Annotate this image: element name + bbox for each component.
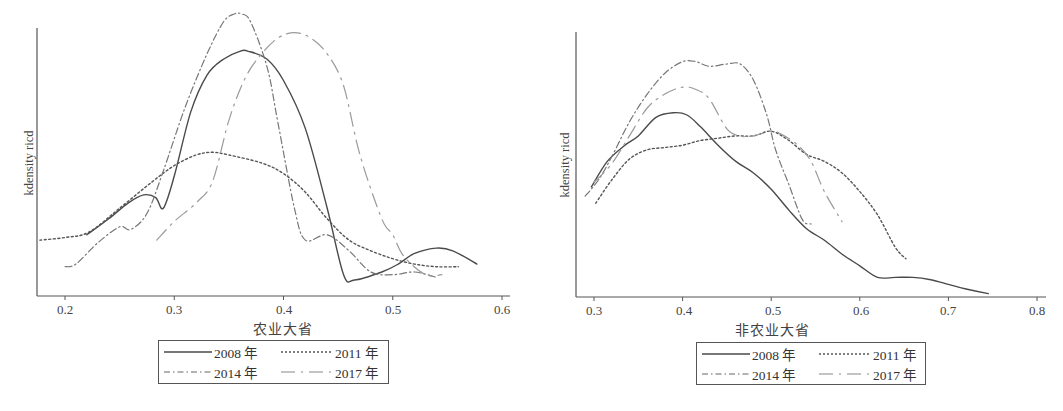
right-x-tick-label: 0.3 [586,303,602,319]
left-x-tick-label: 0.5 [385,302,401,318]
series-line-2011 [40,152,458,267]
series-line-2008 [87,50,477,282]
right-x-tick-label: 0.7 [940,303,956,319]
dashdot-line-swatch-icon [702,369,750,379]
right-x-tick-label: 0.8 [1029,303,1045,319]
right-x-tick-label: 0.4 [676,303,692,319]
right-x-tick-label: 0.6 [853,303,869,319]
legend-item-2017: 2017 年 [819,365,916,383]
dotted-line-swatch-icon [281,347,333,357]
legend-item-2008: 2008 年 [164,343,257,361]
series-line-2014 [65,13,437,277]
left-legend: 2008 年 2011 年 2014 年 2017 年 [158,340,389,384]
legend-item-2014: 2014 年 [702,365,795,383]
longdash-line-swatch-icon [819,369,871,379]
legend-item-2014: 2014 年 [164,363,257,381]
solid-line-swatch-icon [164,347,212,357]
legend-item-2011: 2011 年 [819,345,916,363]
series-line-2008 [591,113,988,294]
legend-item-2017: 2017 年 [281,363,378,381]
left-y-axis-label: kdensity ricd [22,131,37,196]
left-x-tick-label: 0.4 [276,302,292,318]
left-x-tick-label: 0.6 [494,302,510,318]
series-line-2014 [585,61,811,224]
dotted-line-swatch-icon [819,349,871,359]
solid-line-swatch-icon [702,349,750,359]
legend-item-2008: 2008 年 [702,345,795,363]
left-x-tick-label: 0.2 [57,302,73,318]
right-chart-panel: kdensity ricd 0.3 0.4 0.5 0.6 0.7 0.8 非农… [531,0,1063,411]
left-chart-panel: kdensity ricd 0.2 0.3 0.4 0.5 0.6 农业大省 2… [0,0,531,411]
dashdot-line-swatch-icon [164,367,212,377]
longdash-line-swatch-icon [281,367,333,377]
right-legend: 2008 年 2011 年 2014 年 2017 年 [696,342,926,385]
series-line-2017 [594,87,842,222]
legend-item-2011: 2011 年 [281,343,378,361]
left-x-axis-label: 农业大省 [253,318,313,338]
right-x-axis-label: 非农业大省 [735,319,810,339]
right-x-tick-label: 0.5 [765,303,781,319]
left-x-tick-label: 0.3 [166,302,182,318]
right-y-axis-label: kdensity ricd [558,133,573,198]
series-line-2011 [596,131,906,259]
